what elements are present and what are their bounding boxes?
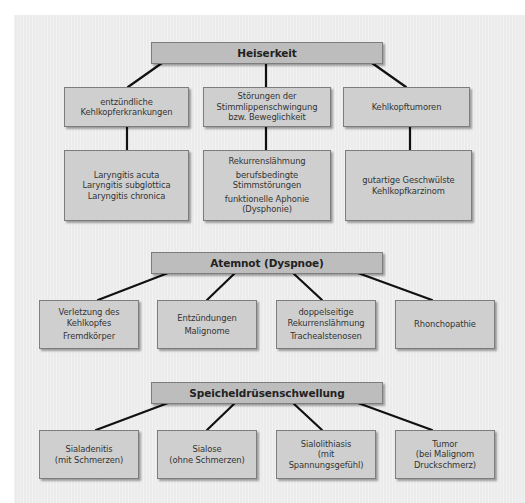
- child-line: Verletzung des: [59, 307, 120, 318]
- item-kehlkopfkarzinom: Kehlkopfkarzinom: [372, 186, 445, 197]
- item-laryngitis-acuta: Laryngitis acuta: [94, 170, 160, 181]
- connector-atemnot-4: [358, 273, 432, 300]
- heiserkeit-title: Heiserkeit: [237, 48, 297, 59]
- items-stimmstoerungen: Rekurrenslähmung berufsbedingte Stimmstö…: [203, 150, 331, 221]
- connector-atemnot-1: [98, 273, 168, 300]
- speichel-child-sialolithiasis: Sialolithiasis (mit Spannungsgefühl): [276, 430, 376, 479]
- child-line: (mit Schmerzen): [55, 455, 123, 466]
- item-laryngitis-subglottica: Laryngitis subglottica: [83, 180, 171, 191]
- child-line: Entzündungen: [177, 313, 236, 324]
- item-funktionelle-aphonie-line: funktionelle Aphonie: [225, 194, 309, 205]
- items-kehlkopftumoren: gutartige Geschwülste Kehlkopfkarzinom: [345, 150, 472, 221]
- atemnot-child-rhonchopathie: Rhonchopathie: [395, 300, 495, 349]
- heiserkeit-title-box: Heiserkeit: [151, 42, 383, 64]
- child-line: Trachealstenosen: [290, 331, 361, 342]
- speichel-child-tumor: Tumor (bei Malignom Druckschmerz): [395, 430, 495, 479]
- connector-speichel-4: [358, 403, 432, 430]
- item-funktionelle-aphonie-line: (Dysphonie): [242, 204, 292, 215]
- speichel-child-sialose: Sialose (ohne Schmerzen): [157, 430, 257, 479]
- category-label-line: entzündliche: [100, 97, 153, 108]
- items-laryngitis: Laryngitis acuta Laryngitis subglottica …: [64, 150, 189, 221]
- connector-atemnot-2: [207, 273, 235, 300]
- child-line: (bei Malignom: [416, 449, 474, 460]
- item-gutartige-geschwuelste: gutartige Geschwülste: [362, 175, 454, 186]
- child-line: Rekurrenslähmung: [287, 318, 364, 329]
- child-line: Sialose: [192, 444, 221, 455]
- item-laryngitis-chronica: Laryngitis chronica: [88, 191, 166, 202]
- child-line: Sialolithiasis: [301, 439, 352, 450]
- atemnot-child-doppelseitige: doppelseitige Rekurrenslähmung Tracheals…: [276, 300, 376, 349]
- connector-speichel-2: [207, 403, 235, 430]
- category-label-line: bzw. Beweglichkeit: [228, 112, 305, 123]
- atemnot-child-verletzung: Verletzung des Kehlkopfes Fremdkörper: [39, 300, 139, 349]
- item-berufsbedingte-line: Stimmstörungen: [233, 180, 301, 191]
- category-entzuendliche-kehlkopferkrankungen: entzündliche Kehlkopferkrankungen: [64, 87, 189, 127]
- child-line: (ohne Schmerzen): [169, 455, 244, 466]
- child-line: (mit: [318, 449, 335, 460]
- category-label-line: Stimmlippenschwingung: [217, 102, 318, 113]
- connector-heiserkeit-right: [372, 63, 406, 87]
- item-rekurrenslaehmung: Rekurrenslähmung: [228, 156, 305, 167]
- item-berufsbedingte-line: berufsbedingte: [236, 170, 298, 181]
- category-label-line: Kehlkopftumoren: [372, 102, 442, 113]
- speichel-child-sialadenitis: Sialadenitis (mit Schmerzen): [39, 430, 139, 479]
- speichel-title: Speicheldrüsenschwellung: [189, 388, 344, 399]
- child-line: doppelseitige: [298, 307, 353, 318]
- child-line: Malignome: [184, 326, 229, 337]
- child-line: Druckschmerz): [414, 460, 476, 471]
- child-line: Spannungsgefühl): [289, 460, 364, 471]
- connector-heiserkeit-left: [128, 63, 162, 87]
- speichel-title-box: Speicheldrüsenschwellung: [151, 382, 383, 404]
- category-label-line: Kehlkopferkrankungen: [80, 107, 172, 118]
- atemnot-title-box: Atemnot (Dyspnoe): [151, 252, 383, 274]
- category-stimmlippenschwingung: Störungen der Stimmlippenschwingung bzw.…: [203, 87, 331, 127]
- child-line: Kehlkopfes: [67, 318, 111, 329]
- child-line: Sialadenitis: [65, 444, 112, 455]
- category-label-line: Störungen der: [238, 91, 297, 102]
- connector-speichel-3: [293, 403, 322, 430]
- atemnot-child-entzuendungen: Entzündungen Malignome: [157, 300, 257, 349]
- category-kehlkopftumoren: Kehlkopftumoren: [343, 87, 470, 127]
- connector-speichel-1: [96, 403, 168, 430]
- connector-atemnot-3: [293, 273, 322, 300]
- child-line: Rhonchopathie: [414, 319, 476, 330]
- child-line: Tumor: [432, 439, 457, 450]
- atemnot-title: Atemnot (Dyspnoe): [210, 258, 324, 269]
- child-line: Fremdkörper: [63, 331, 115, 342]
